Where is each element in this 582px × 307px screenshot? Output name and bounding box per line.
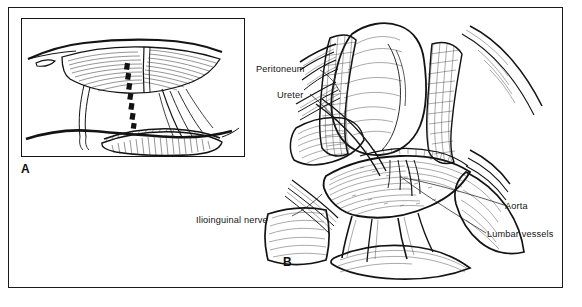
panel-a-artwork — [22, 19, 245, 157]
label-ilioinguinal-nerve: Ilioinguinal nerve — [196, 215, 268, 225]
label-lumbar-vessels: Lumbar vessels — [487, 229, 553, 239]
label-peritoneum: Peritoneum — [256, 64, 304, 74]
panel-a-letter: A — [21, 162, 30, 176]
label-aorta: Aorta — [505, 201, 528, 211]
figure-root: A — [0, 0, 582, 307]
label-ureter: Ureter — [277, 90, 303, 100]
panel-b-letter: B — [283, 255, 292, 269]
panel-a-inset-box — [21, 18, 245, 157]
incision-dash-group — [124, 63, 137, 129]
